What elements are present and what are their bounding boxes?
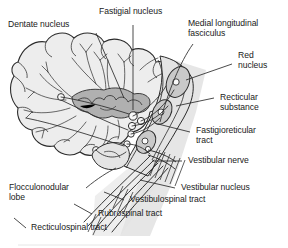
anatomy-diagram-figure: Dentate nucleus Fastigial nucleus Medial… xyxy=(0,0,288,248)
label-red-nucleus: Red nucleus xyxy=(238,50,267,70)
label-medial-longitudinal-fasciculus: Medial longitudinal fasciculus xyxy=(188,18,258,38)
label-flocculonodular-lobe: Flocculonodular lobe xyxy=(9,182,69,202)
label-vestibular-nucleus: Vestibular nucleus xyxy=(181,182,250,192)
label-fastigial-nucleus: Fastigial nucleus xyxy=(99,6,162,16)
label-dentate-nucleus: Dentate nucleus xyxy=(8,19,69,29)
label-recticular-substance: Recticular substance xyxy=(220,92,259,112)
label-recticulospinal-tract: Recticulospinal tract xyxy=(31,222,107,232)
label-vestibular-nerve: Vestibular nerve xyxy=(188,155,249,165)
label-rubrospinal-tract: Rubrospinal tract xyxy=(98,208,162,218)
leader-rubrospinal-tract xyxy=(74,204,92,214)
leader-recticulospinal-tract xyxy=(14,218,26,228)
label-vestibulospinal-tract: Vestibulospinal tract xyxy=(130,194,205,204)
label-fastigioreticular-tract: Fastigioreticular tract xyxy=(196,125,256,145)
